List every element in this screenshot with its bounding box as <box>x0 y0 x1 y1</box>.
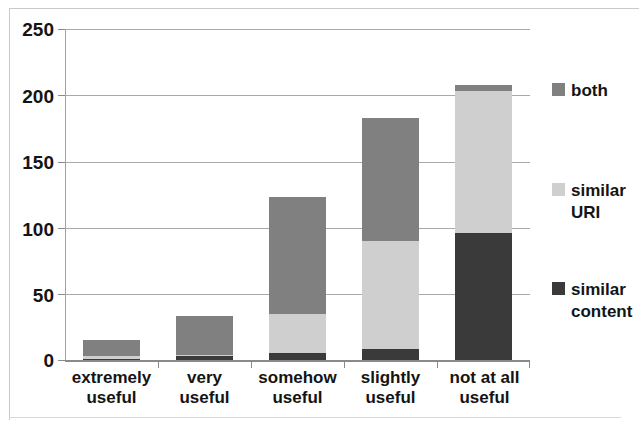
x-label-not-at-all-useful: not at all useful <box>437 368 532 407</box>
legend-label-both: both <box>571 80 608 102</box>
legend-item-both: both <box>552 80 608 102</box>
bar-4-segment-similar-content <box>362 349 419 360</box>
y-tick-mark-0 <box>58 360 65 361</box>
chart-screenshot: 250 200 150 100 50 0 extremely useful ve… <box>0 0 641 425</box>
bar-2 <box>176 316 233 360</box>
y-tick-label-150: 150 <box>6 153 54 172</box>
x-separator-1 <box>158 360 159 368</box>
bar-5-segment-similar-uri <box>455 91 512 233</box>
legend-swatch-both-icon <box>552 83 565 96</box>
legend-item-similar-uri: similar URI <box>552 180 626 224</box>
x-label-somehow-useful: somehow useful <box>251 368 344 407</box>
bar-5 <box>455 85 512 360</box>
y-tick-mark-250 <box>58 29 65 30</box>
x-label-very-useful: very useful <box>158 368 251 407</box>
legend-label-similar-uri: similar URI <box>571 180 626 224</box>
x-separator-4 <box>437 360 438 368</box>
bar-3-segment-similar-uri <box>269 314 326 354</box>
bar-1-segment-both <box>83 340 140 356</box>
bar-4 <box>362 118 419 360</box>
bar-2-segment-similar-content <box>176 356 233 360</box>
bar-3-segment-both <box>269 197 326 314</box>
legend-item-similar-content: similar content <box>552 279 632 323</box>
bar-2-segment-both <box>176 316 233 354</box>
bar-5-segment-both <box>455 85 512 92</box>
legend-swatch-similar-content-icon <box>552 282 565 295</box>
plot-area <box>65 29 530 361</box>
x-axis-line <box>65 360 530 362</box>
bar-1-segment-similar-content <box>83 359 140 360</box>
y-tick-label-0: 0 <box>6 351 54 370</box>
bar-1 <box>83 340 140 360</box>
bar-5-segment-similar-content <box>455 233 512 360</box>
x-label-extremely-useful: extremely useful <box>65 368 158 407</box>
bar-4-segment-both <box>362 118 419 241</box>
y-tick-label-100: 100 <box>6 220 54 239</box>
gridline-250 <box>65 29 530 30</box>
y-tick-mark-200 <box>58 95 65 96</box>
y-tick-mark-100 <box>58 228 65 229</box>
bar-3 <box>269 197 326 360</box>
x-separator-2 <box>251 360 252 368</box>
bar-3-segment-similar-content <box>269 353 326 360</box>
x-separator-3 <box>344 360 345 368</box>
legend-swatch-similar-uri-icon <box>552 183 565 196</box>
y-tick-mark-50 <box>58 294 65 295</box>
y-tick-label-50: 50 <box>6 286 54 305</box>
bar-4-segment-similar-uri <box>362 241 419 350</box>
x-separator-5 <box>529 360 530 368</box>
x-label-slightly-useful: slightly useful <box>344 368 437 407</box>
y-tick-label-200: 200 <box>6 87 54 106</box>
y-tick-label-250: 250 <box>6 20 54 39</box>
y-tick-mark-150 <box>58 162 65 163</box>
legend-label-similar-content: similar content <box>571 279 632 323</box>
